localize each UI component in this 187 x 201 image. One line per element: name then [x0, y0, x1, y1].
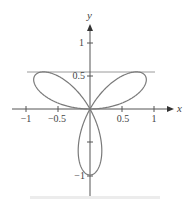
y-tick-label: 1	[79, 37, 84, 48]
x-tick-label: 1	[152, 113, 157, 124]
x-axis-label: x	[176, 102, 182, 114]
bottom-band	[30, 196, 160, 199]
y-tick-label: 0.5	[73, 70, 86, 81]
x-tick-label: −1	[21, 113, 32, 124]
x-axis-arrow-icon	[167, 106, 174, 112]
y-axis-arrow-icon	[87, 24, 93, 31]
x-tick-label: 0.5	[117, 113, 130, 124]
x-tick-label: −0.5	[48, 113, 66, 124]
polar-rose-chart: −1 −0.5 0.5 1 1 0.5 −1 x y	[0, 0, 187, 201]
y-axis-label: y	[86, 9, 92, 21]
